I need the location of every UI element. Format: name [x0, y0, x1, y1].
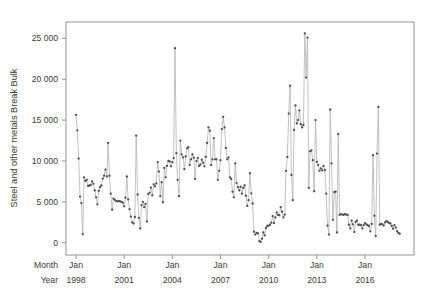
data-point [185, 155, 187, 157]
data-point [159, 195, 161, 197]
data-point [175, 152, 177, 154]
data-point [274, 216, 276, 218]
data-point [110, 193, 112, 195]
data-point [288, 112, 290, 114]
data-point [265, 227, 267, 229]
data-point [144, 203, 146, 205]
plot-frame [66, 22, 414, 255]
data-point [90, 184, 92, 186]
data-point [158, 170, 160, 172]
data-point [190, 158, 192, 160]
data-point [286, 156, 288, 158]
data-point [217, 179, 219, 181]
data-point [246, 205, 248, 207]
data-point [206, 142, 208, 144]
data-point [210, 164, 212, 166]
data-point [92, 183, 94, 185]
data-point [193, 157, 195, 159]
data-point [169, 160, 171, 162]
data-point [269, 224, 271, 226]
data-point [243, 184, 245, 186]
data-point [261, 238, 263, 240]
data-point [346, 214, 348, 216]
data-point [284, 213, 286, 215]
data-point [235, 182, 237, 184]
data-point [162, 201, 164, 203]
data-point [102, 177, 104, 179]
data-point [179, 139, 181, 141]
data-point [191, 153, 193, 155]
data-point [376, 152, 378, 154]
data-point [296, 122, 298, 124]
x-tick-label-year: 2013 [307, 275, 326, 285]
data-point [324, 169, 326, 171]
data-point [194, 178, 196, 180]
data-point [249, 172, 251, 174]
data-point [372, 154, 374, 156]
data-point [205, 156, 207, 158]
data-point [304, 32, 306, 34]
data-point [317, 164, 319, 166]
data-point [306, 36, 308, 38]
data-point [79, 195, 81, 197]
data-point [163, 167, 165, 169]
data-point [195, 160, 197, 162]
x-tick-label-month: Jan [310, 260, 324, 270]
data-point [96, 203, 98, 205]
data-point [273, 222, 275, 224]
data-point [213, 137, 215, 139]
data-point [178, 195, 180, 197]
data-point [264, 234, 266, 236]
data-point [138, 217, 140, 219]
data-point [393, 224, 395, 226]
data-point [151, 194, 153, 196]
data-point [189, 164, 191, 166]
data-point [314, 119, 316, 121]
data-point [78, 157, 80, 159]
data-point [207, 126, 209, 128]
data-point [211, 158, 213, 160]
data-point [368, 225, 370, 227]
data-point [332, 219, 334, 221]
data-point [272, 215, 274, 217]
data-point [104, 168, 106, 170]
data-point [107, 142, 109, 144]
data-point [219, 159, 221, 161]
data-point [223, 126, 225, 128]
data-point [298, 109, 300, 111]
data-point [330, 162, 332, 164]
data-point [132, 222, 134, 224]
x-tick-label-month: Jan [69, 260, 83, 270]
x-tick-label-month: Jan [214, 260, 228, 270]
data-point [242, 187, 244, 189]
data-point [173, 157, 175, 159]
data-point [222, 116, 224, 118]
data-point [281, 211, 283, 213]
data-point [375, 235, 377, 237]
data-point [250, 192, 252, 194]
data-point [174, 47, 176, 49]
data-point [139, 227, 141, 229]
data-point [134, 216, 136, 218]
data-point [262, 231, 264, 233]
data-point [152, 183, 154, 185]
data-point [164, 176, 166, 178]
data-point [82, 233, 84, 235]
data-point [361, 227, 363, 229]
data-point [350, 220, 352, 222]
data-point [310, 149, 312, 151]
data-point [234, 162, 236, 164]
figure-container: 05 00010 00015 00020 00025 000 Jan1998Ja… [0, 0, 433, 304]
data-point [225, 147, 227, 149]
x-tick-label-month: Jan [358, 260, 372, 270]
data-point [392, 228, 394, 230]
data-point [302, 124, 304, 126]
x-tick-label-year: 2004 [163, 275, 182, 285]
y-tick-label: 20 000 [32, 74, 59, 84]
x-tick-label-month: Jan [117, 260, 131, 270]
data-point [352, 223, 354, 225]
data-point [75, 114, 77, 116]
data-point [142, 201, 144, 203]
data-point [305, 76, 307, 78]
data-point [290, 174, 292, 176]
